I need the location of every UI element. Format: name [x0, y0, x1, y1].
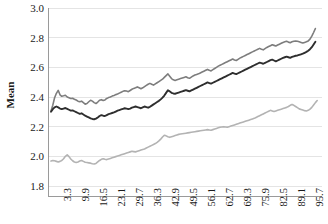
x-tick-label-text: 29.7	[134, 188, 145, 206]
x-tick-label: 95.7	[314, 188, 325, 206]
x-tick-label: 3.3	[62, 188, 73, 201]
x-tick-label: 75.9	[260, 188, 271, 206]
y-tick-label: 2.8	[18, 32, 44, 44]
x-tick-label-text: 69.3	[242, 188, 253, 206]
series-line-lower-line	[51, 101, 317, 164]
x-tick-label: 29.7	[134, 188, 145, 206]
series-line-upper-band	[51, 28, 315, 111]
x-tick-label: 69.3	[242, 188, 253, 206]
x-tick-label-text: 62.7	[224, 188, 235, 206]
plot-area	[48, 8, 322, 186]
x-tick-label: 16.5	[98, 188, 109, 206]
x-tick-label: 23.1	[116, 188, 127, 206]
plot-svg	[48, 8, 322, 186]
y-tick-label: 1.8	[18, 180, 44, 192]
y-tick-label: 3.0	[18, 2, 44, 14]
x-tick-label: 82.5	[278, 188, 289, 206]
x-tick-label-text: 36.3	[152, 188, 163, 206]
x-tick-label: 56.1	[206, 188, 217, 206]
y-tick-label: 2.6	[18, 61, 44, 73]
x-tick-label-text: 16.5	[98, 188, 109, 206]
series-line-middle-line	[51, 42, 315, 119]
x-tick-label-text: 3.3	[62, 188, 73, 201]
x-tick-label-text: 75.9	[260, 188, 271, 206]
data-series-group	[51, 28, 317, 164]
x-tick-label-text: 23.1	[116, 188, 127, 206]
line-chart: Mean 3.02.82.62.42.22.01.8 3.39.916.523.…	[0, 0, 328, 224]
x-tick-label-text: 56.1	[206, 188, 217, 206]
x-tick-label-text: 9.9	[80, 188, 91, 201]
x-tick-label: 89.1	[296, 188, 307, 206]
x-tick-label-text: 42.9	[170, 188, 181, 206]
x-tick-label: 42.9	[170, 188, 181, 206]
x-tick-label: 49.5	[188, 188, 199, 206]
x-axis-tick-labels: 3.39.916.523.129.736.342.949.556.162.769…	[48, 188, 322, 224]
x-tick-label-text: 95.7	[314, 188, 325, 206]
x-tick-label-text: 82.5	[278, 188, 289, 206]
y-tick-label: 2.2	[18, 121, 44, 133]
x-tick-label: 9.9	[80, 188, 91, 201]
x-tick-label-text: 49.5	[188, 188, 199, 206]
x-tick-label: 62.7	[224, 188, 235, 206]
x-tick-label-text: 89.1	[296, 188, 307, 206]
y-tick-label: 2.0	[18, 150, 44, 162]
gridlines	[48, 8, 322, 186]
y-axis-tick-labels: 3.02.82.62.42.22.01.8	[14, 0, 44, 224]
x-tick-label: 36.3	[152, 188, 163, 206]
y-tick-label: 2.4	[18, 91, 44, 103]
